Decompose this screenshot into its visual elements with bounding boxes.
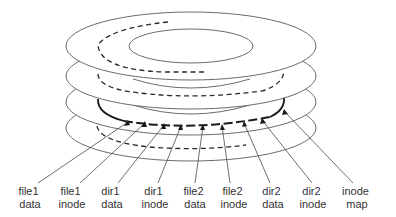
disk-platter-diagram: file1 data file1 inode dir1 data dir1 in…: [0, 0, 396, 217]
label-dir1-inode: dir1 inode: [142, 185, 169, 210]
label-file1-data: file1 data: [18, 185, 41, 210]
labels: file1 data file1 inode dir1 data dir1 in…: [18, 185, 372, 210]
label-file1-inode: file1 inode: [59, 185, 86, 210]
label-file2-inode: file2 inode: [221, 185, 248, 210]
label-file2-data: file2 data: [183, 185, 206, 210]
spindle-hub: [129, 29, 253, 63]
label-inode-map: inode map: [342, 185, 372, 210]
label-dir2-inode: dir2 inode: [300, 185, 327, 210]
label-dir2-data: dir2 data: [262, 185, 284, 210]
label-dir1-data: dir1 data: [101, 185, 123, 210]
platter-1: [66, 12, 316, 80]
